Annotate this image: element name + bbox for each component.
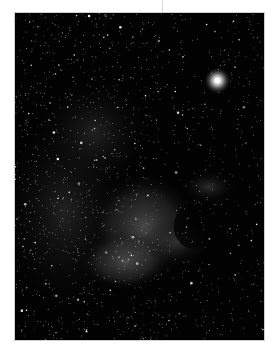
nebula-photo <box>14 12 265 341</box>
star-field <box>15 13 264 340</box>
